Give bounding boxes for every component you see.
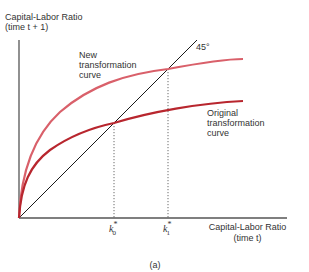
y-axis-label-line2: (time t + 1) xyxy=(5,22,48,32)
chart-root: Capital-Labor Ratio (time t + 1) New tra… xyxy=(0,0,309,272)
y-axis-label-line1: Capital-Labor Ratio xyxy=(5,12,83,22)
x-axis-label-line2: (time t) xyxy=(205,233,290,243)
45-degree-label: 45° xyxy=(196,42,210,52)
new-curve-label-line1: New xyxy=(79,50,97,60)
original-curve-label-line3: curve xyxy=(207,128,229,138)
original-curve-label-line1: Original xyxy=(207,108,238,118)
x-tick-k1: k*1 xyxy=(163,221,170,237)
new-curve-label-line3: curve xyxy=(79,70,101,80)
original-curve-label-line2: transformation xyxy=(207,118,265,128)
new-curve-label-line2: transformation xyxy=(79,60,137,70)
x-tick-k0: k*0 xyxy=(109,221,116,237)
new-transformation-curve xyxy=(19,59,243,218)
panel-label: (a) xyxy=(140,260,170,270)
x-axis-label-line1: Capital-Labor Ratio xyxy=(205,222,290,232)
